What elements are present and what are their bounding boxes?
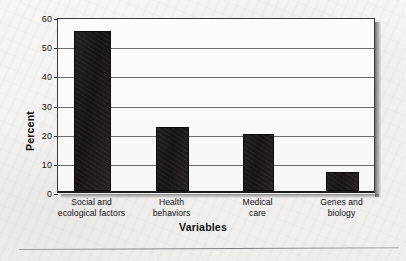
y-tick-mark-40: [54, 77, 58, 78]
y-tick-label-50: 50: [42, 43, 52, 53]
y-tick-label-20: 20: [42, 131, 52, 141]
y-tick-mark-0: [54, 194, 58, 195]
bar-4: [326, 172, 359, 191]
plot-area: 0102030405060: [57, 18, 375, 193]
x-category-label-3-line-2: care: [211, 208, 305, 219]
x-category-label-2-line-2: behaviors: [125, 208, 219, 219]
y-tick-mark-20: [54, 136, 58, 137]
x-category-label-2: Healthbehaviors: [125, 197, 219, 218]
bar-2: [156, 127, 189, 191]
y-tick-mark-10: [54, 165, 58, 166]
x-axis-title: Variables: [0, 221, 406, 233]
x-category-label-2-line-1: Health: [159, 197, 184, 207]
x-category-label-4: Genes andbiology: [295, 197, 389, 218]
plot-frame-shadow-right: [375, 22, 381, 197]
bar-1: [74, 31, 111, 191]
y-tick-label-10: 10: [42, 160, 52, 170]
x-category-label-1-line-1: Social and: [71, 197, 112, 207]
x-category-label-4-line-1: Genes and: [320, 197, 363, 207]
x-category-label-3-line-1: Medical: [243, 197, 273, 207]
bar-chart-figure: Percent 0102030405060 Social andecologic…: [0, 0, 406, 261]
y-tick-label-60: 60: [42, 14, 52, 24]
y-axis-title: Percent: [24, 111, 36, 151]
y-tick-label-30: 30: [42, 102, 52, 112]
y-tick-mark-60: [54, 19, 58, 20]
y-tick-label-40: 40: [42, 72, 52, 82]
y-tick-mark-30: [54, 107, 58, 108]
x-category-label-4-line-2: biology: [295, 208, 389, 219]
y-tick-mark-50: [54, 48, 58, 49]
x-category-label-3: Medicalcare: [211, 197, 305, 218]
bar-3: [243, 134, 274, 191]
